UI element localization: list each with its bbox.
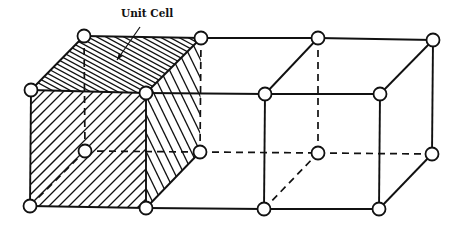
hatch-line xyxy=(0,85,40,215)
hatch-line xyxy=(219,30,349,100)
hatch-line xyxy=(120,85,250,215)
edge-front-vertical xyxy=(30,90,31,206)
edge-front-top xyxy=(146,93,265,94)
hatch-line xyxy=(204,30,294,215)
edge-depth-bottom xyxy=(146,152,200,208)
lattice-node-back-top-3 xyxy=(427,34,440,47)
lattice-nodes xyxy=(24,30,440,216)
edge-depth-top xyxy=(31,36,84,90)
hidden-edge-back-bottom xyxy=(200,152,318,153)
edge-depth-bottom xyxy=(379,154,432,209)
lattice-node-front-bottom-3 xyxy=(373,203,386,216)
edge-front-vertical xyxy=(379,94,380,209)
unit-cell-label: Unit Cell xyxy=(121,7,173,19)
edge-depth-top xyxy=(380,40,433,94)
hatch-line xyxy=(50,85,180,215)
hatch-line xyxy=(0,85,50,215)
hatch-line xyxy=(258,30,348,215)
edge-back-top xyxy=(318,38,433,40)
hatch-line xyxy=(0,85,10,215)
hatch-line xyxy=(170,85,300,215)
hatch-line xyxy=(0,85,30,215)
hatch-line xyxy=(110,85,240,215)
edge-back-top xyxy=(84,36,201,38)
lattice-node-back-bottom-3 xyxy=(426,148,439,161)
edge-depth-top xyxy=(146,38,201,93)
hatch-line xyxy=(0,30,115,100)
hatch-line xyxy=(213,30,303,215)
hatch-line xyxy=(231,30,321,215)
lattice-node-front-bottom-1 xyxy=(140,202,153,215)
hidden-edge-back-vertical xyxy=(84,36,85,151)
lattice-node-back-top-0 xyxy=(78,30,91,43)
hatch-line xyxy=(230,85,360,215)
hidden-edge-depth xyxy=(264,153,318,209)
hatch-line xyxy=(100,85,230,215)
lattice-node-back-bottom-2 xyxy=(312,147,325,160)
hatch-line xyxy=(150,85,280,215)
hatch-line xyxy=(220,85,350,215)
lattice-node-front-top-1 xyxy=(140,87,153,100)
lattice-node-back-bottom-0 xyxy=(79,145,92,158)
lattice-node-front-top-3 xyxy=(374,88,387,101)
lattice-node-front-top-0 xyxy=(25,84,38,97)
edge-front-bottom xyxy=(146,208,264,209)
hatch-line xyxy=(0,30,124,100)
lattice-node-front-top-2 xyxy=(259,88,272,101)
hatch-line xyxy=(0,85,20,215)
hidden-edge-back-bottom xyxy=(318,153,432,154)
hatch-line xyxy=(160,85,290,215)
hatch-line xyxy=(237,30,367,100)
hatch-line xyxy=(249,30,339,215)
hatch-line xyxy=(30,85,160,215)
hatch-line xyxy=(177,30,267,215)
lattice-node-front-bottom-0 xyxy=(24,200,37,213)
hatch-line xyxy=(0,30,106,100)
hatch-line xyxy=(240,85,370,215)
hatch-line xyxy=(0,85,130,215)
hatch-line xyxy=(195,30,285,215)
edge-depth-top xyxy=(265,38,318,94)
unit-cell-lattice-diagram: Unit Cell xyxy=(0,0,463,233)
lattice-node-front-bottom-2 xyxy=(258,203,271,216)
edge-front-vertical xyxy=(264,94,265,209)
top-face-hatching xyxy=(0,30,385,100)
lattice-node-back-top-2 xyxy=(312,32,325,45)
lattice-node-back-top-1 xyxy=(195,32,208,45)
hatch-line xyxy=(190,85,320,215)
hatch-line xyxy=(192,30,322,100)
lattice-node-back-bottom-1 xyxy=(194,146,207,159)
edge-back-vertical xyxy=(432,40,433,154)
